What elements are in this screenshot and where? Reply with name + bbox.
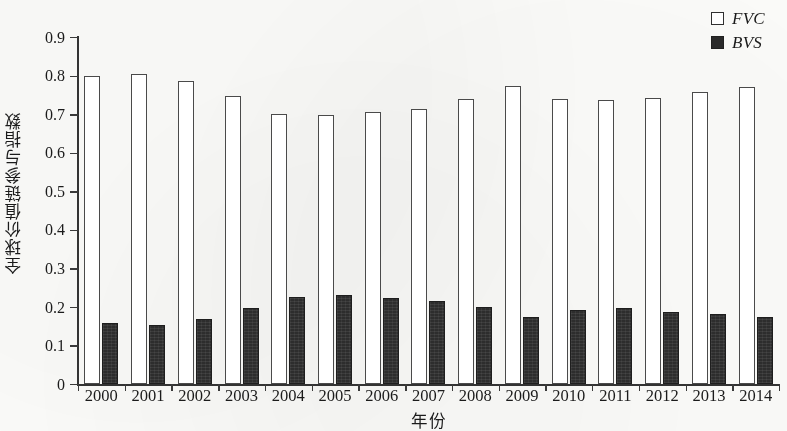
bar-fvc: [84, 76, 100, 384]
bar-bvs: [383, 298, 399, 384]
x-axis-tick-label: 2006: [365, 388, 398, 405]
bar-fvc: [131, 74, 147, 384]
x-axis-tick-label: 2002: [178, 388, 211, 405]
y-axis-tick: 0.7: [70, 114, 78, 115]
y-axis-tick-label: 0.2: [45, 300, 65, 316]
bar-fvc: [458, 99, 474, 384]
x-axis-tick-label: 2004: [272, 388, 305, 405]
x-axis-tick-label: 2005: [319, 388, 352, 405]
bar-group: [732, 37, 779, 384]
x-axis-tick-label: 2010: [552, 388, 585, 405]
bar-bvs: [149, 325, 165, 384]
x-axis-tick-label: 2007: [412, 388, 445, 405]
y-axis-tick: 0.6: [70, 153, 78, 154]
x-axis-tick-label: 2013: [692, 388, 725, 405]
x-axis-tick-label: 2012: [646, 388, 679, 405]
bar-group: [218, 37, 265, 384]
bar-group: [265, 37, 312, 384]
bar-fvc: [505, 86, 521, 384]
legend-swatch-filled-square-icon: [711, 36, 724, 49]
y-axis-tick-label: 0.4: [45, 222, 65, 238]
legend-item-fvc: FVC: [711, 6, 765, 30]
bar-group: [545, 37, 592, 384]
chart-legend: FVC BVS: [711, 6, 765, 54]
bar-bvs: [476, 307, 492, 384]
legend-swatch-open-square-icon: [711, 12, 724, 25]
y-axis-tick: 0.9: [70, 37, 78, 38]
bar-fvc: [365, 112, 381, 384]
bar-group: [171, 37, 218, 384]
y-axis-tick-label: 0.5: [45, 184, 65, 200]
bar-bvs: [757, 317, 773, 384]
legend-label-bvs: BVS: [732, 34, 762, 51]
bar-bvs: [289, 297, 305, 384]
x-axis-tick-label: 2014: [739, 388, 772, 405]
bar-group: [405, 37, 452, 384]
bar-fvc: [225, 96, 241, 384]
bar-bvs: [710, 314, 726, 384]
y-axis-title-text: 全球价值链参与指数: [3, 112, 27, 274]
bar-fvc: [552, 99, 568, 384]
bar-group: [592, 37, 639, 384]
chart-figure: FVC BVS 全球价值链参与指数 00.10.20.30.40.50.60.7…: [0, 0, 787, 431]
x-axis-tick-label: 2008: [459, 388, 492, 405]
x-axis-tick-label: 2009: [505, 388, 538, 405]
bar-bvs: [616, 308, 632, 384]
bar-bvs: [336, 295, 352, 384]
bar-bvs: [663, 312, 679, 384]
bar-fvc: [692, 92, 708, 384]
bar-fvc: [411, 109, 427, 384]
bar-fvc: [318, 115, 334, 385]
y-axis-tick-label: 0: [57, 377, 65, 393]
y-axis-tick: 0.3: [70, 268, 78, 269]
y-axis-tick: 0.8: [70, 76, 78, 77]
bar-group: [639, 37, 686, 384]
y-axis-tick-label: 0.7: [45, 107, 65, 123]
x-axis-tick-label: 2011: [599, 388, 631, 405]
bar-group: [499, 37, 546, 384]
bar-fvc: [271, 114, 287, 384]
y-axis-tick-label: 0.9: [45, 30, 65, 46]
bar-fvc: [739, 87, 755, 384]
bar-bvs: [196, 319, 212, 384]
bar-bvs: [523, 317, 539, 384]
bar-bvs: [102, 323, 118, 384]
legend-item-bvs: BVS: [711, 30, 765, 54]
x-axis-tick-label: 2003: [225, 388, 258, 405]
bar-group: [452, 37, 499, 384]
y-axis-tick: 0.2: [70, 307, 78, 308]
y-axis-tick: 0: [70, 384, 78, 385]
bar-fvc: [645, 98, 661, 384]
x-axis-tick-label: 2000: [85, 388, 118, 405]
x-axis-tick: [779, 384, 780, 391]
y-axis-tick: 0.4: [70, 230, 78, 231]
bar-group: [686, 37, 733, 384]
legend-label-fvc: FVC: [732, 10, 765, 27]
bar-bvs: [429, 301, 445, 384]
bar-fvc: [598, 100, 614, 384]
bar-group: [312, 37, 359, 384]
x-axis-tick-label: 2001: [132, 388, 165, 405]
bar-bvs: [570, 310, 586, 384]
plot-area: 00.10.20.30.40.50.60.70.80.9: [78, 37, 779, 384]
y-axis-tick-label: 0.8: [45, 68, 65, 84]
y-axis-title: 全球价值链参与指数: [2, 0, 28, 386]
y-axis-tick: 0.1: [70, 345, 78, 346]
y-axis-tick-label: 0.6: [45, 145, 65, 161]
bar-group: [358, 37, 405, 384]
x-axis-title: 年份: [78, 408, 779, 431]
bar-group: [125, 37, 172, 384]
bar-bvs: [243, 308, 259, 384]
bar-group: [78, 37, 125, 384]
y-axis-tick-label: 0.3: [45, 261, 65, 277]
bar-fvc: [178, 81, 194, 384]
y-axis-tick: 0.5: [70, 191, 78, 192]
y-axis-tick-label: 0.1: [45, 338, 65, 354]
